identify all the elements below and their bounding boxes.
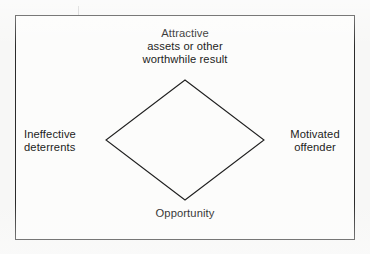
diagram-figure: Attractive assets or other worthwhile re… [0, 0, 370, 254]
label-motivated-offender: Motivated offender [275, 128, 355, 154]
diamond-shape [106, 80, 264, 200]
label-opportunity: Opportunity [135, 207, 235, 220]
label-attractive-assets: Attractive assets or other worthwhile re… [111, 27, 259, 66]
label-ineffective-deterrents: Ineffective deterrents [24, 128, 102, 154]
